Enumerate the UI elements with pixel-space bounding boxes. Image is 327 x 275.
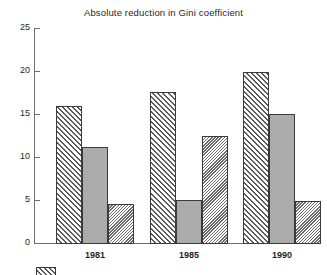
x-axis-label-1981: 1981 [56,250,134,260]
legend [36,267,61,275]
bar-1990-series-2 [269,114,295,244]
y-tick-mark [35,71,40,72]
bar-group-1990 [243,29,321,244]
bar-1981-series-2 [82,147,108,244]
y-tick-label: 25 [20,22,30,32]
y-tick-mark [35,157,40,158]
y-tick-label: 0 [25,237,30,247]
y-axis-line [34,28,35,244]
bar-1985-series-2 [176,200,202,244]
y-tick-label: 15 [20,108,30,118]
plot-area: 25 20 15 10 5 0 [34,28,312,244]
bar-1985-series-3 [202,136,228,244]
y-tick-label: 5 [25,194,30,204]
y-axis-tick-25: 25 [34,28,40,29]
bar-chart: Absolute reduction in Gini coefficient 2… [0,0,327,275]
bar-1981-series-3 [108,204,134,244]
y-tick-mark [35,243,40,244]
y-tick-mark [35,114,40,115]
bar-1985-series-1 [150,92,176,244]
y-axis-tick-5: 5 [34,200,40,201]
y-axis-tick-20: 20 [34,71,40,72]
legend-swatch-series-1 [36,267,56,275]
y-axis-tick-10: 10 [34,157,40,158]
bar-1981-series-1 [56,106,82,244]
y-tick-mark [35,200,40,201]
bar-1990-series-1 [243,72,269,244]
y-tick-label: 20 [20,65,30,75]
y-axis-tick-15: 15 [34,114,40,115]
x-axis-label-1990: 1990 [243,250,321,260]
chart-title: Absolute reduction in Gini coefficient [0,7,327,18]
y-axis-tick-0: 0 [34,243,40,244]
bar-group-1985 [150,29,228,244]
y-tick-label: 10 [20,151,30,161]
y-tick-mark [35,28,40,29]
x-axis-label-1985: 1985 [150,250,228,260]
bar-1990-series-3 [295,201,321,244]
bar-group-1981 [56,29,134,244]
